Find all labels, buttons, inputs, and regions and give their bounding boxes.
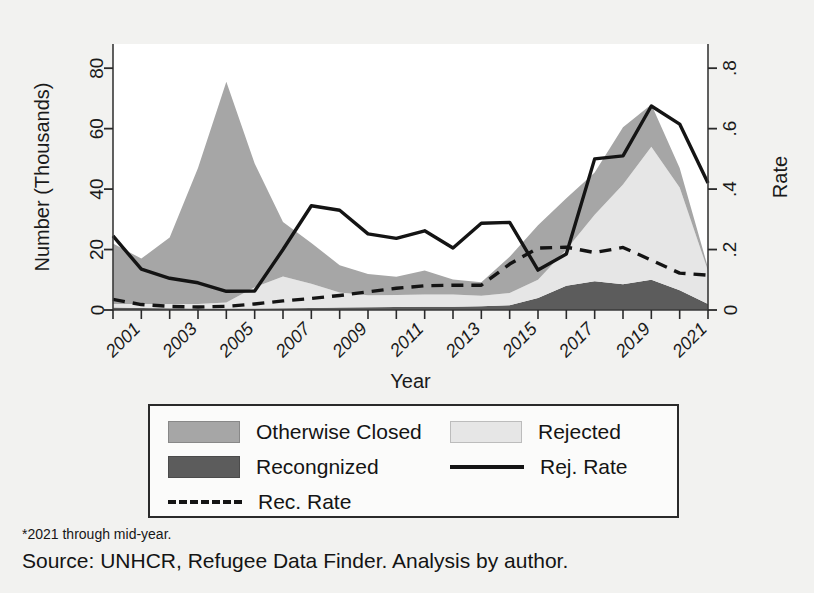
y-axis-title: Number (Thousands): [31, 83, 53, 272]
legend-label-recognized: Recongnized: [256, 455, 379, 479]
y-axis-tick-label: 20: [87, 239, 108, 260]
y2-axis-tick-label: 0: [720, 305, 741, 316]
legend-swatch-rejected: [450, 421, 522, 443]
legend-item-otherwise-closed: Otherwise Closed: [168, 420, 422, 444]
x-axis-tick-label: 2009: [328, 319, 371, 362]
x-axis-tick-label: 2015: [498, 318, 542, 362]
legend-swatch-recognized: [168, 456, 240, 478]
x-axis-tick-label: 2017: [554, 318, 598, 362]
x-axis-tick-label: 2019: [611, 319, 654, 362]
x-axis-tick-label: 2021: [668, 319, 711, 362]
legend-swatch-otherwise-closed: [168, 421, 240, 443]
x-axis-title: Year: [390, 370, 431, 392]
legend-label-rec-rate: Rec. Rate: [258, 490, 351, 514]
y-axis-tick-label: 80: [87, 58, 108, 79]
y2-axis-tick-label: .2: [720, 242, 741, 258]
legend-item-rej-rate: Rej. Rate: [450, 455, 628, 479]
x-axis-tick-label: 2003: [158, 319, 201, 362]
y-axis-tick-label: 60: [87, 118, 108, 139]
y2-axis-tick-label: .6: [720, 121, 741, 137]
y2-axis-title: Rate: [769, 156, 791, 198]
y2-axis-tick-label: .8: [720, 60, 741, 76]
x-axis-tick-label: 2007: [271, 318, 315, 362]
legend-line-rej-rate: [450, 465, 524, 469]
x-axis-tick-label: 2013: [441, 319, 484, 362]
legend-line-rec-rate: [168, 500, 242, 504]
footnote-source: Source: UNHCR, Refugee Data Finder. Anal…: [22, 549, 568, 573]
legend-item-rec-rate: Rec. Rate: [168, 490, 351, 514]
legend-label-rejected: Rejected: [538, 420, 621, 444]
stacked-area-chart: 0204060800.2.4.6.82001200320052007200920…: [0, 0, 814, 400]
y-axis-tick-label: 0: [87, 305, 108, 316]
legend-item-recognized: Recongnized: [168, 455, 379, 479]
figure-container: 0204060800.2.4.6.82001200320052007200920…: [0, 0, 814, 593]
legend-label-rej-rate: Rej. Rate: [540, 455, 628, 479]
y2-axis-tick-label: .4: [720, 181, 741, 197]
x-axis-tick-label: 2011: [385, 319, 427, 361]
x-axis-tick-label: 2005: [214, 318, 258, 362]
x-axis-tick-label: 2001: [101, 319, 144, 362]
y-axis-tick-label: 40: [87, 179, 108, 200]
chart-legend: Otherwise Closed Rejected Recongnized Re…: [148, 404, 679, 518]
legend-label-otherwise-closed: Otherwise Closed: [256, 420, 422, 444]
footnote-note: *2021 through mid-year.: [22, 526, 171, 542]
legend-item-rejected: Rejected: [450, 420, 621, 444]
